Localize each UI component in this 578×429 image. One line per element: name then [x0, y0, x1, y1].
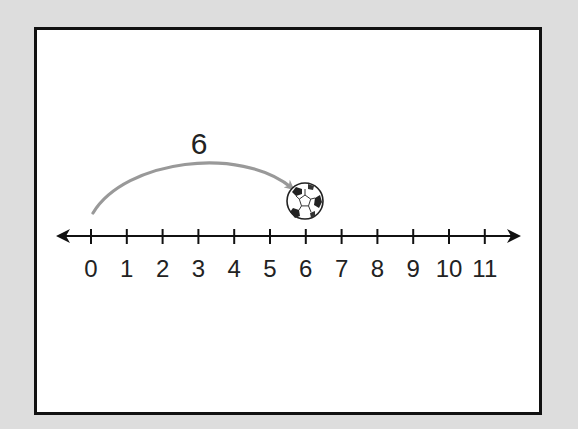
- tick-label: 9: [407, 255, 420, 282]
- tick-labels: 0 1 2 3 4 5 6 7 8 9 10 11: [84, 255, 497, 282]
- tick-label: 8: [371, 255, 384, 282]
- tick-label: 4: [228, 255, 241, 282]
- tick-label: 6: [299, 255, 312, 282]
- tick-label: 1: [120, 255, 133, 282]
- tick-label: 2: [156, 255, 169, 282]
- soccer-ball-icon: [287, 183, 323, 219]
- tick-label: 10: [436, 255, 463, 282]
- jump-arc: [93, 163, 292, 213]
- tick-label: 7: [335, 255, 348, 282]
- jump-label: 6: [191, 127, 208, 160]
- tick-label: 11: [472, 255, 497, 282]
- number-line-diagram: 6 0 1: [0, 0, 578, 429]
- tick-label: 3: [192, 255, 205, 282]
- tick-label: 5: [263, 255, 276, 282]
- tick-label: 0: [84, 255, 97, 282]
- number-line-axis: [56, 229, 521, 243]
